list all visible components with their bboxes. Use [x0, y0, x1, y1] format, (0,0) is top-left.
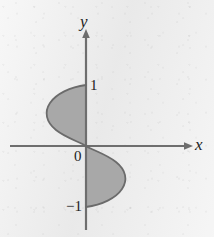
- x-axis-label: x: [195, 136, 203, 153]
- y-tick-label-one: 1: [90, 78, 98, 93]
- y-tick-label-negative-one: −1: [66, 199, 82, 214]
- math-figure: y x 1 0 −1: [0, 0, 214, 237]
- graph-canvas: [0, 0, 214, 237]
- y-axis-label: y: [80, 13, 88, 30]
- origin-label: 0: [74, 149, 82, 164]
- x-axis-arrowhead: [184, 142, 193, 150]
